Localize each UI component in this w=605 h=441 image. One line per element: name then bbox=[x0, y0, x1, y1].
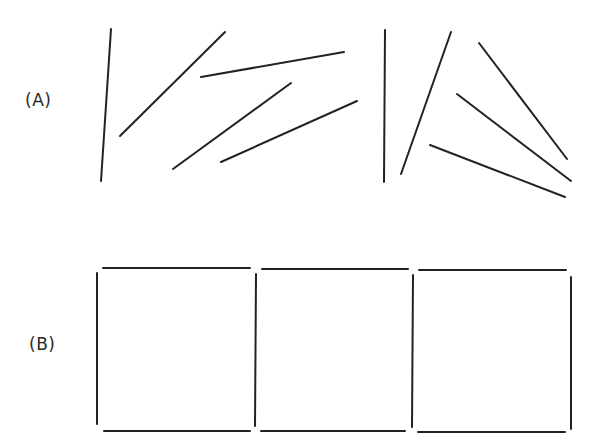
line-segment bbox=[201, 52, 344, 77]
line-segment bbox=[101, 29, 111, 181]
figure: (A) (B) bbox=[0, 0, 605, 441]
line-segment bbox=[430, 145, 565, 197]
panel-b-label: (B) bbox=[29, 334, 55, 354]
line-segment bbox=[401, 32, 451, 174]
line-segment bbox=[457, 94, 571, 181]
panel-b-segments bbox=[97, 268, 571, 432]
line-segment bbox=[384, 30, 385, 182]
line-segment bbox=[255, 274, 256, 426]
line-segment bbox=[120, 32, 225, 136]
line-segment bbox=[221, 101, 357, 162]
line-segment bbox=[412, 275, 413, 427]
panel-a-label: (A) bbox=[25, 90, 51, 110]
line-drawing bbox=[0, 0, 605, 441]
panel-a-segments bbox=[101, 29, 571, 197]
line-segment bbox=[479, 43, 567, 159]
